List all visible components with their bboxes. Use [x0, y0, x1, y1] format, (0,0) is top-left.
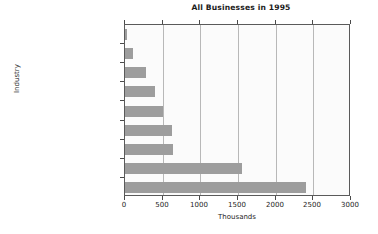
bar[interactable] [125, 182, 306, 193]
x-tick-label: 0 [104, 201, 144, 209]
bar[interactable] [125, 67, 146, 78]
y-tick-mark [120, 43, 124, 44]
y-axis-label: Industry [13, 64, 21, 93]
y-tick-mark [120, 62, 124, 63]
bar[interactable] [125, 125, 172, 136]
bar-row [125, 86, 350, 97]
x-tick-label: 500 [142, 201, 182, 209]
x-tick-label: 1000 [179, 201, 219, 209]
bar[interactable] [125, 86, 155, 97]
bar[interactable] [125, 144, 173, 155]
bar-row [125, 125, 350, 136]
x-tick-mark-top [124, 20, 125, 24]
bar-row [125, 48, 350, 59]
x-tick-label: 2000 [255, 201, 295, 209]
y-tick-mark [120, 158, 124, 159]
chart-figure: All Businesses in 1995 Industry MiningAg… [0, 0, 378, 234]
bar-row [125, 67, 350, 78]
x-axis-label: Thousands [124, 213, 350, 221]
chart-title: All Businesses in 1995 [52, 3, 378, 12]
x-tick-label: 3000 [330, 201, 370, 209]
y-tick-mark [120, 139, 124, 140]
bar-row [125, 182, 350, 193]
x-tick-mark-top [237, 20, 238, 24]
x-tick-mark-top [199, 20, 200, 24]
x-tick-mark [237, 196, 238, 200]
bar-row [125, 163, 350, 174]
y-tick-mark [120, 100, 124, 101]
x-tick-mark [124, 196, 125, 200]
x-tick-mark-top [350, 20, 351, 24]
bar[interactable] [125, 163, 242, 174]
y-tick-mark [120, 177, 124, 178]
bar[interactable] [125, 106, 163, 117]
x-tick-mark-top [162, 20, 163, 24]
x-tick-mark [350, 196, 351, 200]
bar[interactable] [125, 48, 133, 59]
x-tick-mark [162, 196, 163, 200]
x-tick-mark [312, 196, 313, 200]
x-tick-mark [275, 196, 276, 200]
bar[interactable] [125, 29, 127, 40]
bar-row [125, 106, 350, 117]
bar-row [125, 29, 350, 40]
x-tick-mark-top [312, 20, 313, 24]
y-tick-mark [120, 120, 124, 121]
x-tick-label: 2500 [292, 201, 332, 209]
x-tick-mark-top [275, 20, 276, 24]
plot-area [124, 24, 350, 196]
x-tick-mark [199, 196, 200, 200]
y-tick-mark [120, 81, 124, 82]
bar-row [125, 144, 350, 155]
x-tick-label: 1500 [217, 201, 257, 209]
